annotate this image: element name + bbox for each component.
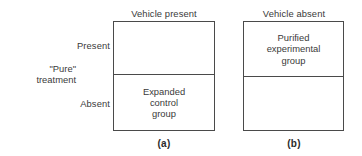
caption-panel-a: (a): [158, 138, 171, 149]
panel-a-cell-absent-label-line-3: group: [143, 108, 185, 119]
panel-b-cell-absent: [244, 77, 343, 130]
column-header-vehicle-present: Vehicle present: [131, 8, 197, 19]
panel-b-cell-present-label-line-3: group: [267, 55, 321, 66]
panel-b-cell-present-label-line-2: experimental: [267, 43, 321, 54]
panel-a-cell-absent: Expanded control group: [114, 75, 214, 130]
panel-b-cell-present-label-line-1: Purified: [267, 32, 321, 43]
panel-a-cell-absent-label: Expanded control group: [143, 86, 185, 120]
row-label-present: Present: [77, 40, 110, 51]
column-header-vehicle-absent: Vehicle absent: [263, 8, 325, 19]
panel-b-matrix: Purified experimental group: [243, 21, 344, 131]
panel-a-matrix: Expanded control group: [113, 21, 215, 131]
panel-a-cell-absent-label-line-1: Expanded: [143, 86, 185, 97]
row-axis-title-line-1: "Pure": [36, 63, 76, 74]
caption-panel-b: (b): [287, 138, 300, 149]
panel-a-cell-present: [114, 22, 214, 74]
experimental-design-figure: Vehicle present Vehicle absent Present A…: [0, 0, 362, 156]
row-axis-title: "Pure" treatment: [36, 63, 76, 85]
row-label-absent: Absent: [80, 98, 110, 109]
panel-a-cell-absent-label-line-2: control: [143, 97, 185, 108]
panel-b-cell-present: Purified experimental group: [244, 22, 343, 76]
row-axis-title-line-2: treatment: [36, 74, 76, 85]
panel-b-cell-present-label: Purified experimental group: [267, 32, 321, 66]
